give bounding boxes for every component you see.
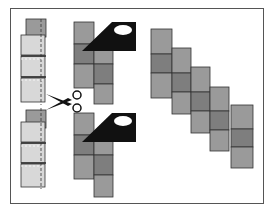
scissors-icon <box>46 91 81 112</box>
strip-set-top <box>21 19 46 105</box>
diagonal-layout <box>151 29 253 168</box>
diagram-canvas <box>0 0 275 213</box>
strip-set-bottom <box>21 108 46 189</box>
